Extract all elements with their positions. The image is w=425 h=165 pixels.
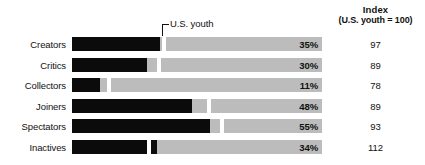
bar-fill xyxy=(72,99,192,113)
us-youth-benchmark-marker xyxy=(207,99,211,113)
us-youth-benchmark-marker xyxy=(162,37,166,51)
chart-row: Spectators55%93 xyxy=(0,118,425,135)
bar-track: 11% xyxy=(72,78,322,92)
chart-row: Joiners48%89 xyxy=(0,98,425,115)
us-youth-benchmark-marker xyxy=(220,119,224,133)
chart-row: Creators35%97 xyxy=(0,36,425,53)
row-label-inactives: Inactives xyxy=(0,142,66,153)
elbow-pointer-icon xyxy=(162,24,169,36)
row-label-critics: Critics xyxy=(0,60,66,71)
index-value: 89 xyxy=(326,101,425,112)
bar-track: 48% xyxy=(72,99,322,113)
chart-row: Inactives34%112 xyxy=(0,139,425,156)
chart-row: Critics30%89 xyxy=(0,57,425,74)
bar-track: 30% xyxy=(72,58,322,72)
index-header-title: Index xyxy=(326,4,425,15)
social-technographics-chart: Index (U.S. youth = 100) U.S. youth Crea… xyxy=(0,0,425,165)
chart-row: Collectors11%78 xyxy=(0,77,425,94)
bar-value-label: 48% xyxy=(299,101,318,112)
bar-track: 35% xyxy=(72,37,322,51)
index-value: 112 xyxy=(326,142,425,153)
index-value: 93 xyxy=(326,121,425,132)
bar-fill xyxy=(72,37,160,51)
index-column-header: Index (U.S. youth = 100) xyxy=(326,4,425,26)
bar-fill xyxy=(72,58,147,72)
bar-fill xyxy=(72,78,100,92)
us-youth-callout-label: U.S. youth xyxy=(170,18,213,29)
bar-fill xyxy=(72,140,157,154)
us-youth-benchmark-marker xyxy=(157,58,161,72)
index-header-subtitle: (U.S. youth = 100) xyxy=(326,15,425,26)
row-label-creators: Creators xyxy=(0,39,66,50)
index-value: 78 xyxy=(326,80,425,91)
bar-fill xyxy=(72,119,210,133)
index-value: 89 xyxy=(326,60,425,71)
us-youth-benchmark-marker xyxy=(107,78,111,92)
us-youth-benchmark-marker xyxy=(147,140,151,154)
bar-track: 55% xyxy=(72,119,322,133)
row-label-joiners: Joiners xyxy=(0,101,66,112)
index-value: 97 xyxy=(326,39,425,50)
row-label-spectators: Spectators xyxy=(0,121,66,132)
bar-value-label: 30% xyxy=(299,60,318,71)
bar-value-label: 11% xyxy=(300,80,318,91)
bar-value-label: 55% xyxy=(299,121,318,132)
bar-value-label: 35% xyxy=(299,39,318,50)
bar-value-label: 34% xyxy=(299,142,318,153)
row-label-collectors: Collectors xyxy=(0,80,66,91)
bar-track: 34% xyxy=(72,140,322,154)
